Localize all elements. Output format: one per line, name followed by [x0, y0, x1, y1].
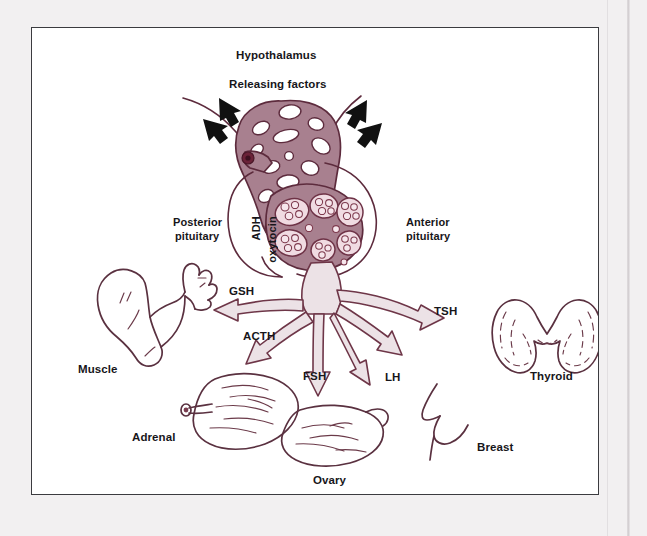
acth-label: ACTH [243, 330, 275, 343]
anterior-pituitary-label-line1: Anterior [406, 216, 450, 228]
gsh-arrow [214, 299, 303, 321]
gsh-label: GSH [229, 285, 254, 298]
breast-label: Breast [477, 441, 513, 454]
releasing-factors-label: Releasing factors [229, 78, 327, 91]
tsh-label: TSH [434, 305, 457, 318]
thyroid-label: Thyroid [530, 370, 573, 383]
anterior-pituitary-tissue [266, 184, 364, 270]
page-background: .ol{fill:none;stroke:#5d2b3d;stroke-widt… [0, 0, 647, 536]
anterior-pituitary-label-line2: pituitary [406, 230, 450, 242]
fsh-arrow [306, 314, 330, 396]
oxytocin-label: oxytocin [266, 216, 278, 263]
ovary-label: Ovary [313, 474, 346, 487]
lh-label: LH [385, 371, 401, 384]
posterior-pituitary-label-line2: pituitary [175, 230, 219, 242]
releasing-factor-arrow-3 [345, 100, 367, 129]
muscle-organ [98, 264, 217, 367]
muscle-label: Muscle [78, 363, 118, 376]
thyroid-organ [492, 300, 601, 373]
breast-organ [422, 384, 468, 460]
adh-label: ADH [250, 216, 262, 240]
posterior-pituitary-label-line1: Posterior [173, 216, 222, 228]
releasing-factor-arrow-1 [219, 98, 241, 127]
releasing-factor-arrow-2 [203, 119, 228, 144]
adrenal-organ [181, 374, 298, 450]
fsh-label: FSH [303, 370, 326, 383]
hypothalamus-label: Hypothalamus [236, 49, 316, 62]
adrenal-label: Adrenal [132, 431, 176, 444]
hormone-outflow-trunk [302, 262, 342, 314]
releasing-factor-arrow-4 [357, 123, 382, 148]
